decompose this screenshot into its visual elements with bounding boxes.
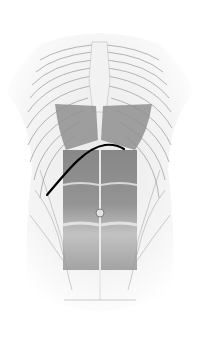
torso-illustration: [0, 0, 199, 346]
umbilicus: [96, 209, 104, 217]
anatomy-figure: Anterior torso anatomy illustration: [0, 0, 199, 346]
sternum: [89, 42, 110, 112]
